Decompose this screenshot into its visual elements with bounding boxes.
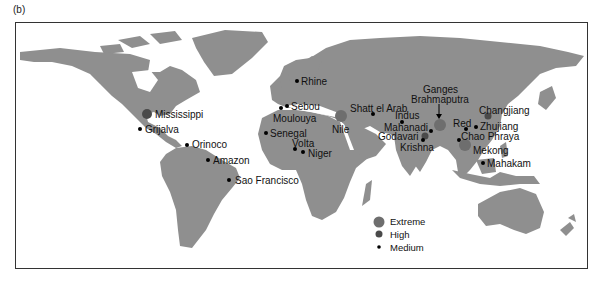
river-label-sebou: Sebou [291, 101, 320, 112]
river-label-rhine: Rhine [301, 76, 327, 87]
river-label-amazon: Amazon [213, 155, 250, 166]
river-label-niger: Niger [308, 148, 332, 159]
legend-markers [374, 217, 385, 249]
river-label-chao-phraya: Chao Phraya [461, 131, 519, 142]
river-label-changjiang: Changjiang [479, 105, 530, 116]
river-label-red: Red [453, 118, 471, 129]
legend-high: High [390, 229, 410, 240]
river-label-indus: Indus [395, 110, 419, 121]
legend-extreme: Extreme [390, 216, 425, 227]
river-label-mahakam: Mahakam [487, 158, 531, 169]
river-label-krishna: Krishna [400, 142, 434, 153]
river-label-sao-francisco: Sao Francisco [235, 175, 299, 186]
legend-medium: Medium [390, 242, 424, 253]
river-label-brahmaputra: Brahmaputra [411, 94, 469, 105]
river-label-orinoco: Orinoco [192, 139, 227, 150]
river-label-mekong: Mekong [473, 145, 509, 156]
river-label-mississippi: Mississippi [155, 109, 203, 120]
river-label-nile: Nile [332, 124, 349, 135]
river-label-grijalva: Grijalva [145, 124, 179, 135]
river-label-godavari: Godavari [378, 131, 419, 142]
river-label-moulouya: Moulouya [273, 113, 316, 124]
